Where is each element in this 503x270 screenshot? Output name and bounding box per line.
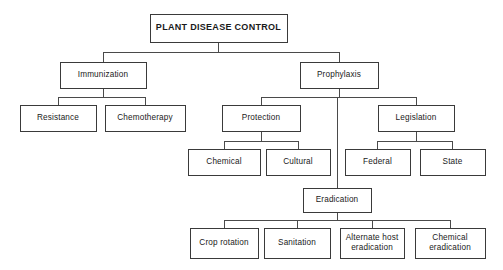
node-label-immunization: Immunization	[78, 70, 129, 79]
node-cultural[interactable]: Cultural	[267, 150, 331, 176]
node-immunization[interactable]: Immunization	[61, 63, 147, 89]
node-eradication[interactable]: Eradication	[304, 189, 372, 213]
node-label-prophylaxis: Prophylaxis	[317, 70, 361, 79]
node-label-cultural: Cultural	[283, 157, 312, 166]
node-label-alternate-host-eradication: eradication	[351, 243, 393, 252]
node-sanitation[interactable]: Sanitation	[265, 229, 331, 259]
node-label-chemotherapy: Chemotherapy	[117, 113, 173, 122]
node-prophylaxis[interactable]: Prophylaxis	[301, 63, 379, 89]
node-label-legislation: Legislation	[396, 113, 437, 122]
node-federal[interactable]: Federal	[346, 150, 411, 176]
node-label-plant-disease-control: PLANT DISEASE CONTROL	[156, 22, 282, 32]
node-label-federal: Federal	[363, 157, 392, 166]
node-label-resistance: Resistance	[37, 113, 79, 122]
node-chemotherapy[interactable]: Chemotherapy	[106, 106, 186, 132]
node-resistance[interactable]: Resistance	[21, 106, 97, 132]
node-label-sanitation: Sanitation	[278, 238, 316, 247]
node-label-chemical: Chemical	[206, 157, 241, 166]
node-label-protection: Protection	[242, 113, 281, 122]
diagram-canvas: PLANT DISEASE CONTROLImmunizationProphyl…	[0, 0, 503, 270]
node-legislation[interactable]: Legislation	[379, 106, 455, 132]
node-label-alternate-host-eradication: Alternate host	[346, 233, 399, 242]
plant-disease-control-tree: PLANT DISEASE CONTROLImmunizationProphyl…	[0, 0, 503, 270]
node-label-state: State	[443, 157, 463, 166]
node-alternate-host-eradication[interactable]: Alternate hosteradication	[341, 229, 405, 259]
node-protection[interactable]: Protection	[223, 106, 301, 132]
node-label-crop-rotation: Crop rotation	[199, 238, 249, 247]
node-label-eradication: Eradication	[316, 195, 359, 204]
node-plant-disease-control[interactable]: PLANT DISEASE CONTROL	[151, 15, 288, 43]
node-chemical-eradication[interactable]: Chemicaleradication	[416, 229, 486, 259]
node-label-chemical-eradication: Chemical	[432, 233, 467, 242]
node-state[interactable]: State	[421, 150, 486, 176]
node-label-chemical-eradication: eradication	[429, 243, 471, 252]
node-crop-rotation[interactable]: Crop rotation	[191, 229, 259, 259]
node-chemical[interactable]: Chemical	[189, 150, 261, 176]
